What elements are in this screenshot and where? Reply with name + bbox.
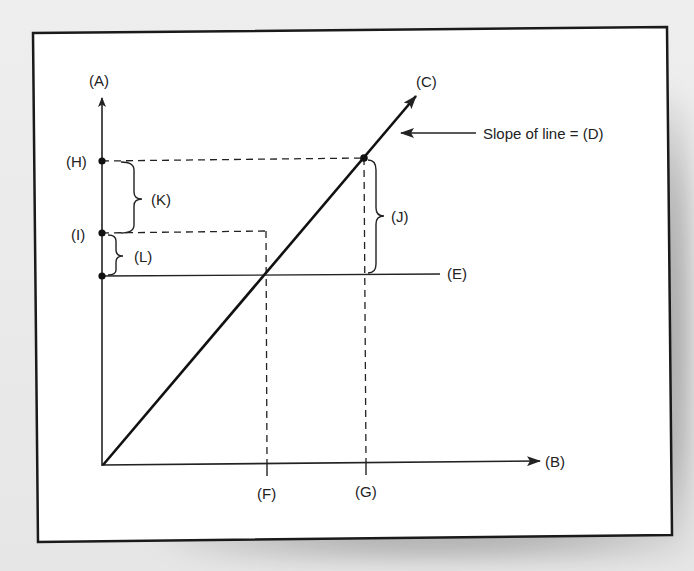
point-h-dot <box>98 157 105 164</box>
label-f: (F) <box>257 485 276 502</box>
diagram-card: (A) (B) (C) Slope of line = (D) (E) (F) … <box>0 0 694 571</box>
label-i: (I) <box>71 226 85 243</box>
point-g-dot <box>360 154 368 162</box>
slope-annotation: Slope of line = (D) <box>483 125 603 142</box>
label-e: (E) <box>447 265 467 282</box>
point-e-dot <box>98 272 105 279</box>
label-h: (H) <box>66 153 87 170</box>
label-g: (G) <box>355 483 377 500</box>
label-a: (A) <box>89 72 109 89</box>
label-l: (L) <box>134 248 152 265</box>
point-i-dot <box>98 229 105 236</box>
label-k: (K) <box>151 191 171 208</box>
label-j: (J) <box>391 208 409 225</box>
label-b: (B) <box>545 453 565 470</box>
label-c: (C) <box>416 73 437 90</box>
diagram-canvas: (A) (B) (C) Slope of line = (D) (E) (F) … <box>0 0 694 571</box>
